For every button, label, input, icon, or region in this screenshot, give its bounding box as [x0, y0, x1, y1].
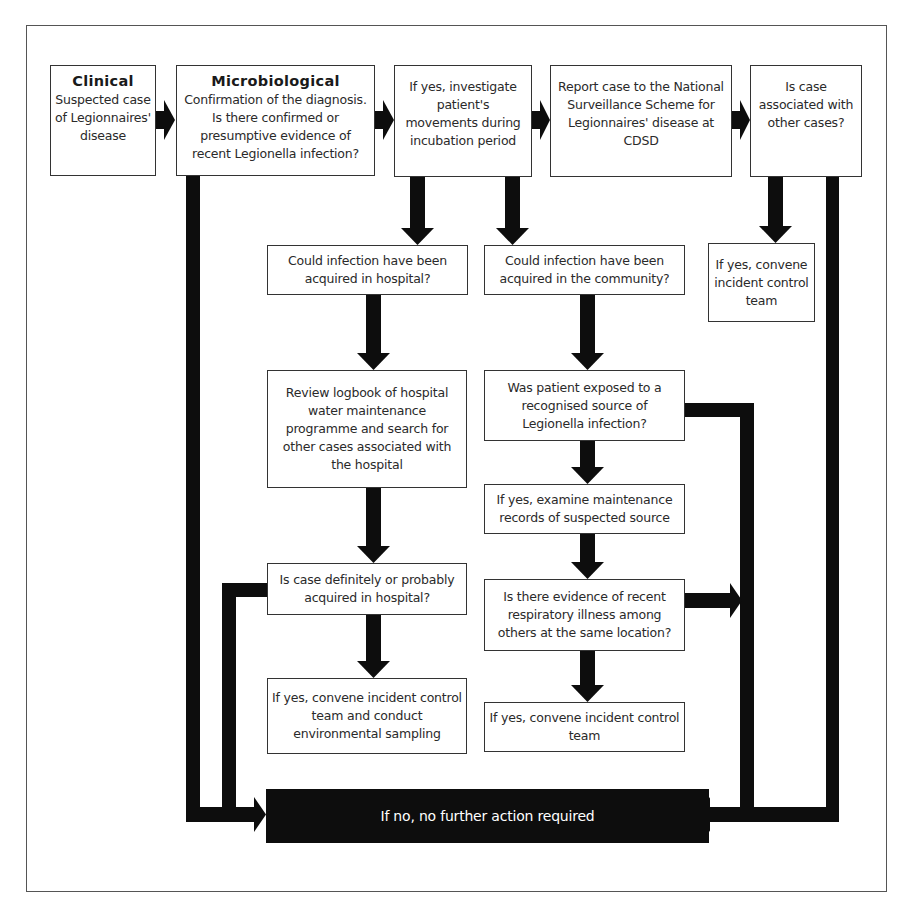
arrow-down-icon [571, 441, 604, 484]
arrow-down-icon [571, 534, 604, 579]
node-no-further-action: If no, no further action required [266, 789, 709, 843]
node-text: Could infection have been acquired in ho… [272, 252, 463, 288]
node-text: Review logbook of hospital water mainten… [272, 384, 462, 474]
arrow-right-icon [732, 100, 750, 140]
arrow-right-icon [156, 100, 175, 140]
node-hospital-yes: If yes, convene incident control team an… [267, 678, 467, 754]
arrow-down-icon [496, 177, 529, 245]
arrow-down-icon [357, 295, 390, 370]
node-text: If yes, convene incident control team an… [272, 689, 462, 743]
arrow-down-icon [357, 488, 390, 563]
arrow-down-icon [571, 295, 604, 370]
node-text: Could infection have been acquired in th… [489, 252, 680, 288]
node-text: If yes, convene incident control team [713, 256, 810, 310]
node-investigate: If yes, investigate patient's movements … [394, 65, 532, 177]
node-text: Is there evidence of recent respiratory … [489, 588, 680, 642]
arrow-down-icon [401, 177, 434, 245]
node-clinical: Clinical Suspected case of Legionnaires'… [50, 65, 156, 176]
node-text: Was patient exposed to a recognised sour… [489, 379, 680, 433]
node-report: Report case to the National Surveillance… [550, 65, 732, 177]
node-examine-records: If yes, examine maintenance records of s… [484, 484, 685, 534]
arrow-right-icon [532, 100, 550, 140]
node-text: Suspected case of Legionnaires' disease [55, 91, 151, 145]
node-hospital-definite-question: Is case definitely or probably acquired … [267, 563, 467, 615]
arrow-right-icon [375, 100, 394, 140]
node-community-yes: If yes, convene incident control team [484, 702, 685, 752]
node-hospital-question: Could infection have been acquired in ho… [267, 245, 468, 295]
node-title: Clinical [72, 72, 134, 91]
node-exposed-question: Was patient exposed to a recognised sour… [484, 370, 685, 441]
node-text: Is case associated with other cases? [755, 78, 857, 132]
node-text: If yes, convene incident control team [489, 709, 680, 745]
node-text: If no, no further action required [380, 807, 594, 825]
node-text: If yes, examine maintenance records of s… [489, 491, 680, 527]
arrow-right-icon [685, 583, 742, 618]
node-text: Confirmation of the diagnosis. Is there … [181, 91, 370, 163]
arrow-down-icon [759, 177, 792, 243]
node-respiratory-question: Is there evidence of recent respiratory … [484, 579, 685, 651]
arrow-down-icon [357, 615, 390, 678]
node-text: Report case to the National Surveillance… [555, 78, 727, 150]
node-community-question: Could infection have been acquired in th… [484, 245, 685, 295]
node-review-logbook: Review logbook of hospital water mainten… [267, 370, 467, 488]
node-title: Microbiological [211, 72, 340, 91]
node-text: Is case definitely or probably acquired … [272, 571, 462, 607]
node-associated-yes: If yes, convene incident control team [708, 243, 815, 322]
node-text: If yes, investigate patient's movements … [399, 78, 527, 150]
arrow-right-icon [236, 797, 266, 832]
node-associated: Is case associated with other cases? [750, 65, 862, 177]
node-microbiological: Microbiological Confirmation of the diag… [176, 65, 375, 176]
arrow-down-icon [571, 651, 604, 702]
